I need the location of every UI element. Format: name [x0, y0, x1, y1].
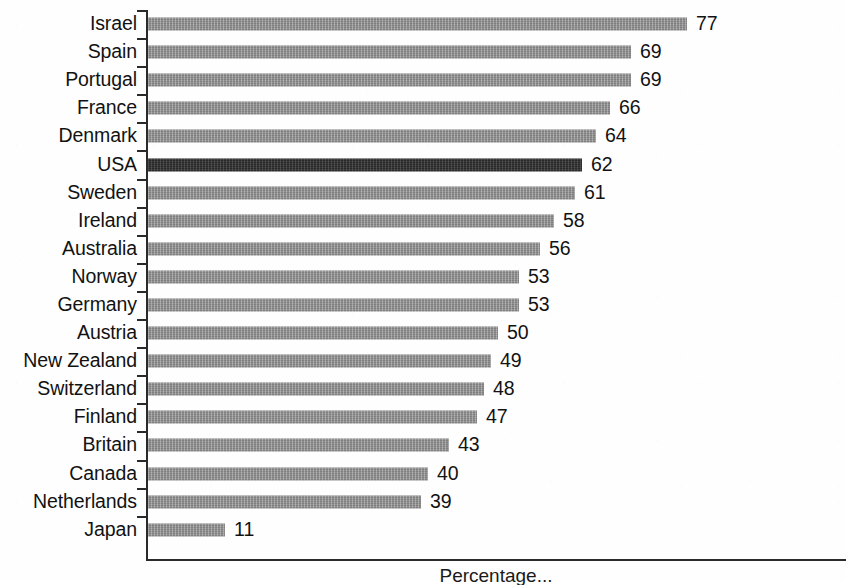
category-label: Ireland — [78, 211, 137, 231]
axis-tick — [137, 488, 147, 490]
value-label: 48 — [493, 380, 515, 400]
bar-row: Australia56 — [0, 235, 846, 263]
axis-tick — [137, 516, 147, 518]
axis-tick — [137, 94, 147, 96]
bar-row: Switzerland48 — [0, 375, 846, 403]
category-label: Australia — [62, 239, 137, 259]
axis-tick — [137, 460, 147, 462]
bar-row: Spain69 — [0, 38, 846, 66]
axis-tick — [137, 122, 147, 124]
value-label: 69 — [640, 42, 662, 62]
bar — [148, 523, 225, 536]
value-label: 64 — [605, 127, 627, 147]
bar — [148, 214, 554, 227]
bar-row: Sweden61 — [0, 179, 846, 207]
value-label: 53 — [528, 267, 550, 287]
category-label: Finland — [74, 408, 137, 428]
value-label: 53 — [528, 295, 550, 315]
bar — [148, 298, 519, 311]
category-label: Netherlands — [33, 492, 137, 512]
bar — [148, 186, 575, 199]
bar-rows: Israel77Spain69Portugal69France66Denmark… — [0, 10, 846, 544]
axis-tick — [137, 150, 147, 152]
axis-tick — [137, 403, 147, 405]
bar-row: Austria50 — [0, 319, 846, 347]
category-label: Denmark — [59, 127, 137, 147]
x-axis-caption: Percentage... — [146, 566, 846, 585]
value-label: 47 — [486, 408, 508, 428]
category-label: France — [77, 99, 137, 119]
bar-row: Netherlands39 — [0, 488, 846, 516]
axis-tick — [137, 179, 147, 181]
axis-tick — [137, 319, 147, 321]
bar-row: Japan11 — [0, 516, 846, 544]
bar — [148, 327, 498, 340]
bar-row: Britain43 — [0, 431, 846, 459]
category-label: USA — [97, 155, 137, 175]
value-label: 50 — [507, 323, 529, 343]
value-label: 61 — [584, 183, 606, 203]
bar-row: New Zealand49 — [0, 347, 846, 375]
axis-tick — [137, 263, 147, 265]
value-label: 62 — [591, 155, 613, 175]
category-label: New Zealand — [23, 351, 137, 371]
value-label: 40 — [437, 464, 459, 484]
bar — [148, 411, 477, 424]
bar-row: Germany53 — [0, 291, 846, 319]
value-label: 56 — [549, 239, 571, 259]
bar — [148, 130, 596, 143]
bar-row: Ireland58 — [0, 207, 846, 235]
value-label: 11 — [234, 520, 254, 540]
category-label: Austria — [77, 323, 137, 343]
category-label: Israel — [90, 14, 137, 34]
bar — [148, 46, 631, 59]
value-label: 69 — [640, 70, 662, 90]
axis-tick — [137, 431, 147, 433]
bar-row: Portugal69 — [0, 66, 846, 94]
bar — [148, 242, 540, 255]
axis-tick — [137, 347, 147, 349]
bar — [148, 270, 519, 283]
value-label: 58 — [563, 211, 585, 231]
axis-tick — [137, 66, 147, 68]
bar-row: USA62 — [0, 150, 846, 178]
bar — [148, 18, 687, 31]
bar-row: Canada40 — [0, 460, 846, 488]
axis-tick — [137, 291, 147, 293]
axis-tick — [137, 235, 147, 237]
value-label: 43 — [458, 436, 480, 456]
bar-row: Finland47 — [0, 403, 846, 431]
axis-tick — [137, 375, 147, 377]
bar — [148, 355, 491, 368]
bar-row: Norway53 — [0, 263, 846, 291]
category-label: Britain — [82, 436, 137, 456]
x-axis-line — [146, 559, 846, 561]
axis-tick — [137, 38, 147, 40]
category-label: Japan — [84, 520, 137, 540]
value-label: 77 — [696, 14, 718, 34]
category-label: Switzerland — [37, 380, 137, 400]
bar-highlighted — [148, 158, 582, 171]
category-label: Portugal — [65, 70, 137, 90]
value-label: 49 — [500, 351, 522, 371]
bar — [148, 74, 631, 87]
bar — [148, 439, 449, 452]
category-label: Norway — [72, 267, 138, 287]
category-label: Sweden — [67, 183, 137, 203]
category-label: Germany — [58, 295, 138, 315]
axis-tick — [137, 10, 147, 12]
value-label: 66 — [619, 99, 641, 119]
value-label: 39 — [430, 492, 452, 512]
bar-row: France66 — [0, 94, 846, 122]
category-label: Canada — [69, 464, 137, 484]
axis-tick — [137, 207, 147, 209]
bar-row: Denmark64 — [0, 122, 846, 150]
category-label: Spain — [88, 42, 137, 62]
bar — [148, 383, 484, 396]
bar — [148, 495, 421, 508]
bar — [148, 102, 610, 115]
bar-row: Israel77 — [0, 10, 846, 38]
bar — [148, 467, 428, 480]
